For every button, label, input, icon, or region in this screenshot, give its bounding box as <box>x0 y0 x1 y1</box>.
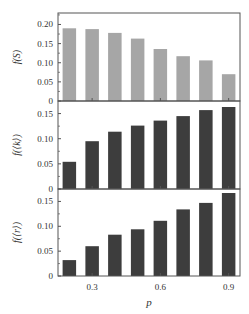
y-tick-label: 0.05 <box>37 246 53 256</box>
y-tick-label: 0.20 <box>37 19 53 29</box>
y-tick-label: 0.10 <box>37 221 53 231</box>
y-tick-label: 0.05 <box>37 159 53 169</box>
bar <box>63 162 77 189</box>
x-tick-label: 0.6 <box>155 282 167 292</box>
y-tick-label: 0 <box>49 96 54 106</box>
bar <box>154 221 168 276</box>
bar <box>176 56 190 101</box>
bar <box>222 193 236 276</box>
bar <box>63 260 77 276</box>
bar <box>108 33 122 101</box>
bar <box>222 107 236 189</box>
bar <box>63 28 77 101</box>
bar <box>199 203 213 276</box>
y-axis-label: f(⟨k⟩) <box>11 133 23 155</box>
plot-frame <box>58 189 240 276</box>
panel-top: 00.050.100.150.20f(S) <box>11 13 240 106</box>
bar <box>154 121 168 189</box>
x-tick-label: 0.3 <box>87 282 99 292</box>
bar <box>108 132 122 189</box>
y-tick-label: 0 <box>49 184 54 194</box>
y-axis-label: f(⟨r⟩) <box>11 221 23 243</box>
y-axis-label: f(S) <box>11 49 23 64</box>
bar <box>222 74 236 101</box>
plot-frame <box>58 101 240 189</box>
x-tick-label: 0.9 <box>223 282 235 292</box>
bar <box>131 39 145 101</box>
figure: 00.050.100.150.20f(S)00.050.100.15f(⟨k⟩)… <box>0 0 249 314</box>
bar <box>108 235 122 276</box>
y-tick-label: 0.15 <box>37 109 53 119</box>
bar <box>85 29 99 101</box>
panel-middle: 00.050.100.15f(⟨k⟩) <box>11 101 240 194</box>
bar <box>131 229 145 276</box>
bar <box>131 126 145 189</box>
bar <box>199 60 213 101</box>
bar <box>85 141 99 189</box>
y-tick-label: 0.10 <box>37 134 53 144</box>
bar <box>176 116 190 189</box>
y-tick-label: 0.15 <box>37 196 53 206</box>
bar <box>85 246 99 276</box>
y-tick-label: 0 <box>49 271 54 281</box>
bar <box>176 209 190 276</box>
y-tick-label: 0.15 <box>37 39 53 49</box>
panel-bottom: 00.050.100.15f(⟨r⟩)0.30.60.9p <box>11 189 240 308</box>
bar <box>199 110 213 189</box>
bar <box>154 49 168 101</box>
y-tick-label: 0.05 <box>37 77 53 87</box>
plot-frame <box>58 13 240 101</box>
x-axis-label: p <box>145 296 152 308</box>
y-tick-label: 0.10 <box>37 58 53 68</box>
